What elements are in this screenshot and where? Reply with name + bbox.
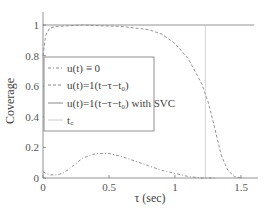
y-tick-label: 0 (34, 172, 40, 184)
legend-label-u0: u(t) ≡ 0 (67, 62, 101, 75)
legend: u(t) ≡ 0 u(t)=1(t−τ−t₀) u(t)=1(t−τ−t₀) w… (44, 57, 175, 131)
y-tick-label: 0.4 (25, 111, 39, 123)
x-tick-label: 0.5 (102, 181, 116, 193)
y-tick-label: 0.6 (25, 80, 39, 92)
y-tick-label: 1 (34, 19, 40, 31)
x-tick-label: 0 (40, 181, 46, 193)
x-axis-label: τ (sec) (134, 191, 165, 205)
y-tick-label: 0.2 (25, 141, 39, 153)
legend-label-tc: t꜀ (67, 114, 74, 126)
series-line-0 (43, 154, 215, 179)
legend-label-svc: u(t)=1(t−τ−t₀) with SVC (67, 97, 175, 110)
y-tick-label: 0.8 (25, 50, 39, 62)
x-tick-label: 1.5 (234, 181, 248, 193)
y-axis-label: Coverage (3, 78, 17, 124)
legend-label-step: u(t)=1(t−τ−t₀) (67, 79, 129, 92)
chart: 00.511.500.20.40.60.81 τ (sec) Coverage … (0, 0, 273, 216)
x-tick-label: 1 (172, 181, 178, 193)
